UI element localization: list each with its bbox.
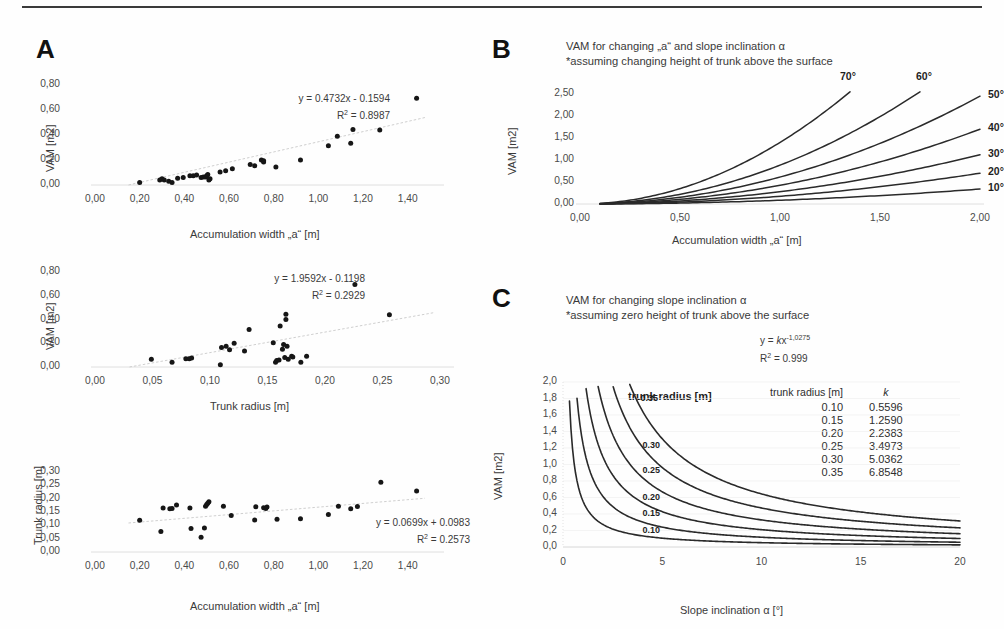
scatter-point [283, 317, 288, 322]
panel-b-series-label: 30° [988, 147, 1004, 159]
scatter-point [227, 347, 232, 352]
tick-label: 1,40 [384, 193, 432, 204]
scatter-point [170, 506, 175, 511]
c-equation: y = kx-1,0275 [760, 330, 960, 348]
tick-label: 1,20 [339, 560, 387, 571]
panel-b-series-label: 20° [988, 165, 1004, 177]
scatter-point [229, 513, 234, 518]
scatter-point [355, 504, 360, 509]
tick-label: 5 [642, 556, 682, 567]
scatter-point [414, 488, 419, 493]
scatter-point [230, 166, 235, 171]
tick-label: 0,20 [20, 336, 60, 347]
scatter-point [232, 341, 237, 346]
tick-label: 10 [742, 556, 782, 567]
tick-label: 0,25 [20, 478, 60, 489]
a2-plot-area [0, 260, 500, 390]
tick-label: 0,60 [205, 560, 253, 571]
scatter-point [414, 96, 419, 101]
tick-label: 0,30 [416, 375, 464, 386]
scatter-point [387, 312, 392, 317]
tick-label: 1,50 [532, 131, 574, 142]
tick-label: 0,50 [532, 175, 574, 186]
tick-label: 1,00 [294, 193, 342, 204]
scatter-point [137, 180, 142, 185]
tick-label: 0,30 [20, 465, 60, 476]
panel-b-heading-line1: VAM for changing „a“ and slope inclinati… [566, 39, 785, 54]
scatter-point [170, 180, 175, 185]
tick-label: 0,80 [250, 560, 298, 571]
tick-label: 0,20 [116, 560, 164, 571]
scatter-point [194, 173, 199, 178]
tick-label: 0,60 [20, 289, 60, 300]
scatter-point [280, 347, 285, 352]
scatter-point [219, 345, 224, 350]
figure-canvas: A VAM [m2] Accumulation width „a“ [m] y … [0, 0, 1004, 629]
scatter-point [273, 164, 278, 169]
tick-label: 0,05 [20, 532, 60, 543]
scatter-point [137, 518, 142, 523]
scatter-point [170, 360, 175, 365]
c-x-axis-title: Slope inclination α [°] [680, 604, 783, 616]
scatter-point [290, 354, 295, 359]
panel-c-series-label: 0.20 [642, 492, 660, 502]
scatter-point [218, 362, 223, 367]
tick-label: 0,00 [20, 360, 60, 371]
scatter-point [247, 327, 252, 332]
scatter-point [181, 175, 186, 180]
panel-b-series-label: 50° [988, 88, 1004, 100]
c-r2: R2 = 0.999 [760, 348, 960, 366]
tick-label: 0 [543, 556, 583, 567]
a2-x-axis-title: Trunk radius [m] [210, 400, 289, 412]
scatter-point [189, 356, 194, 361]
tick-label: 0,8 [523, 474, 557, 485]
scatter-point [149, 357, 154, 362]
tick-label: 20 [940, 556, 980, 567]
tick-label: 0,4 [523, 507, 557, 518]
scatter-point [252, 163, 257, 168]
b-x-axis-title: Accumulation width „a“ [m] [672, 234, 802, 246]
panel-c-series-label: 0.25 [642, 465, 660, 475]
scatter-point [304, 354, 309, 359]
tick-label: 1,0 [523, 458, 557, 469]
a3-x-axis-title: Accumulation width „a“ [m] [190, 600, 320, 612]
tick-label: 0,25 [359, 375, 407, 386]
tick-label: 0,00 [532, 197, 574, 208]
panel-c-series-label: 0.30 [642, 440, 660, 450]
panel-c-plot-area [480, 370, 1004, 580]
tick-label: 0,40 [20, 128, 60, 139]
scatter-point [378, 480, 383, 485]
tick-label: 2,50 [532, 87, 574, 98]
scatter-point [377, 128, 382, 133]
scatter-point [252, 518, 257, 523]
tick-label: 0,40 [160, 193, 208, 204]
panel-c-series-label: 0.35 [640, 393, 658, 403]
scatter-point [202, 526, 207, 531]
tick-label: 0,00 [20, 545, 60, 556]
tick-label: 1,00 [294, 560, 342, 571]
tick-label: 1,50 [856, 212, 904, 223]
scatter-point [348, 506, 353, 511]
scatter-point [261, 159, 266, 164]
tick-label: 0,80 [20, 265, 60, 276]
scatter-point [248, 162, 253, 167]
scatter-point [189, 526, 194, 531]
tick-label: 1,00 [756, 212, 804, 223]
tick-label: 1,6 [523, 408, 557, 419]
tick-label: 1,20 [339, 193, 387, 204]
scatter-point [208, 176, 213, 181]
scatter-point [175, 176, 180, 181]
panel-b-series-label: 70° [840, 70, 856, 82]
tick-label: 2,0 [523, 375, 557, 386]
tick-label: 0,6 [523, 491, 557, 502]
tick-label: 0,0 [523, 540, 557, 551]
panel-b-series-label: 40° [988, 121, 1004, 133]
panel-b-curve [600, 96, 980, 204]
tick-label: 0,15 [20, 505, 60, 516]
scatter-point [218, 169, 223, 174]
panel-c-equation-block: y = kx-1,0275 R2 = 0.999 [760, 330, 960, 367]
scatter-point [187, 506, 192, 511]
scatter-point [298, 360, 303, 365]
tick-label: 0,80 [20, 78, 60, 89]
scatter-point [352, 282, 357, 287]
